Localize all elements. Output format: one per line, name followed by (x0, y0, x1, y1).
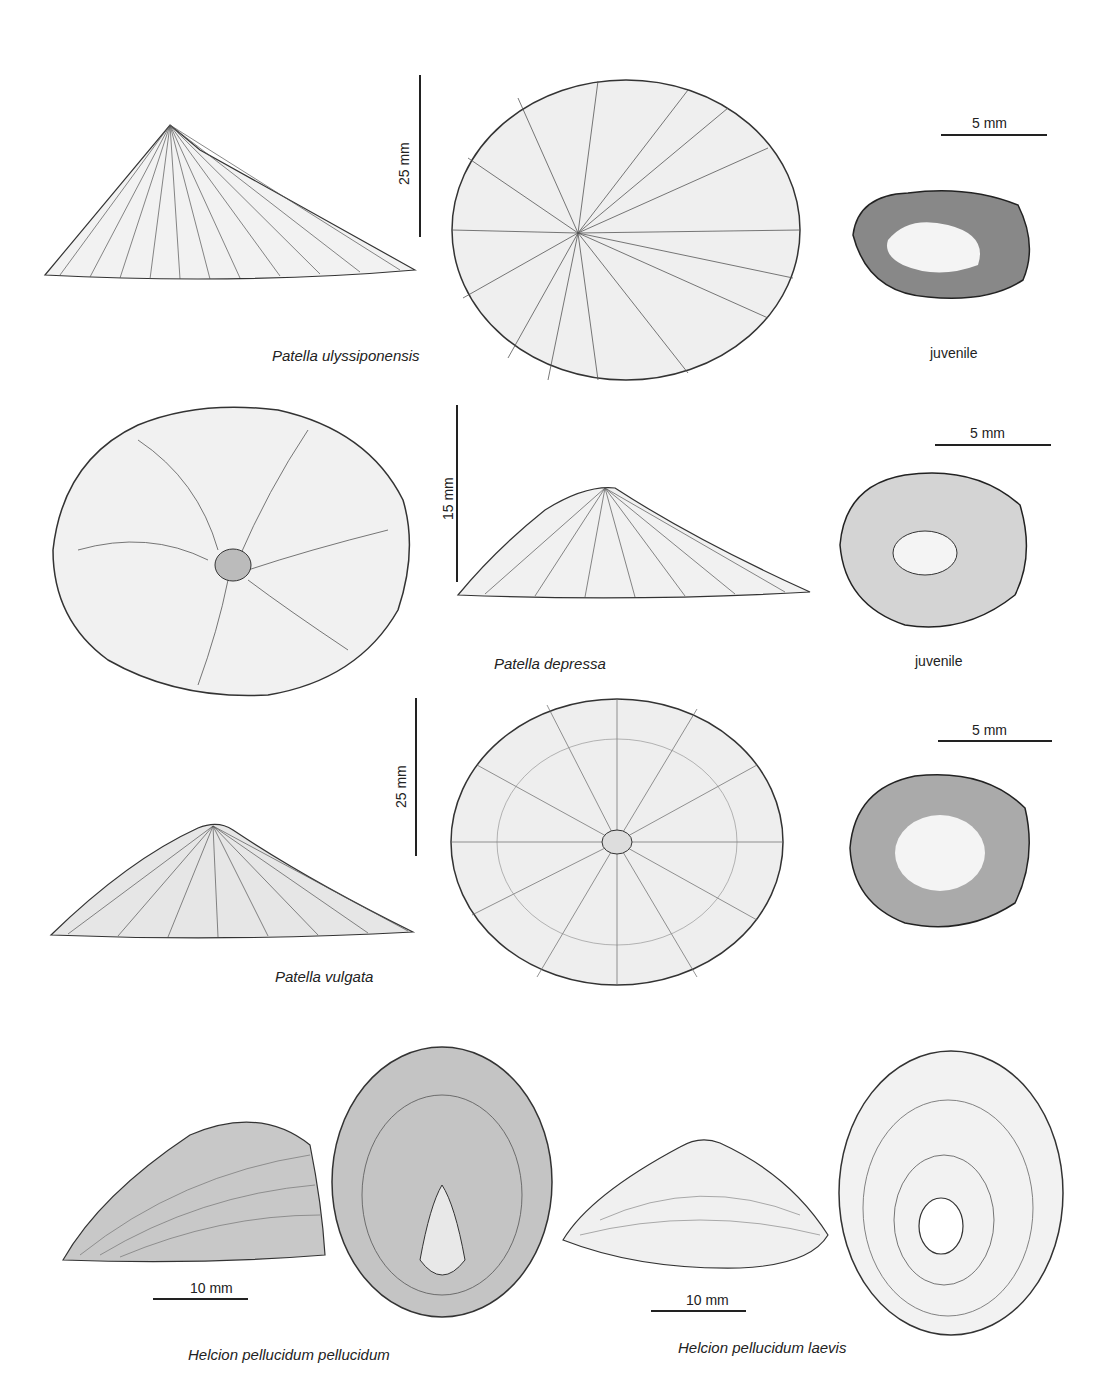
patella-vulgata-dorsal-illustration (447, 695, 787, 990)
juvenile-scale-label-row1: 5 mm (972, 115, 1007, 131)
juvenile-label-row2: juvenile (915, 653, 962, 669)
scale-bar-5mm-row1 (941, 134, 1047, 136)
species-label-helcion-pellucidum-laevis: Helcion pellucidum laevis (678, 1339, 846, 1356)
scale-label-15mm-row2: 15 mm (440, 477, 456, 520)
patella-ulyssiponensis-dorsal-illustration (448, 78, 808, 388)
helcion-pellucidum-laevis-side-illustration (560, 1135, 830, 1275)
species-label-helcion-pellucidum-pellucidum: Helcion pellucidum pellucidum (188, 1346, 390, 1363)
scale-label-25mm-row3: 25 mm (393, 765, 409, 808)
patella-depressa-side-illustration (455, 480, 815, 600)
juvenile-label-row1: juvenile (930, 345, 977, 361)
helcion-pellucidum-pellucidum-side-illustration (60, 1115, 330, 1265)
scale-bar-5mm-row3 (938, 740, 1052, 742)
scale-label-10mm-right: 10 mm (686, 1292, 729, 1308)
patella-vulgata-side-illustration (48, 820, 418, 940)
scale-bar-5mm-row2 (935, 444, 1051, 446)
scale-bar-10mm-left (153, 1298, 248, 1300)
scale-label-25mm-row1: 25 mm (396, 142, 412, 185)
scale-label-10mm-left: 10 mm (190, 1280, 233, 1296)
helcion-pellucidum-pellucidum-dorsal-illustration (330, 1045, 555, 1320)
scale-bar-25mm-row1 (419, 75, 421, 237)
patella-ulyssiponensis-side-illustration (40, 120, 420, 280)
helcion-pellucidum-laevis-dorsal-illustration (836, 1048, 1066, 1338)
species-label-patella-vulgata: Patella vulgata (275, 968, 373, 985)
juvenile-scale-label-row3: 5 mm (972, 722, 1007, 738)
species-label-patella-depressa: Patella depressa (494, 655, 606, 672)
species-label-patella-ulyssiponensis: Patella ulyssiponensis (272, 347, 420, 364)
juvenile-scale-label-row2: 5 mm (970, 425, 1005, 441)
patella-ulyssiponensis-juvenile-illustration (848, 185, 1038, 305)
patella-depressa-juvenile-illustration (835, 465, 1035, 635)
patella-depressa-dorsal-illustration (48, 400, 418, 700)
scale-bar-10mm-right (651, 1310, 746, 1312)
patella-vulgata-juvenile-illustration (845, 768, 1035, 936)
